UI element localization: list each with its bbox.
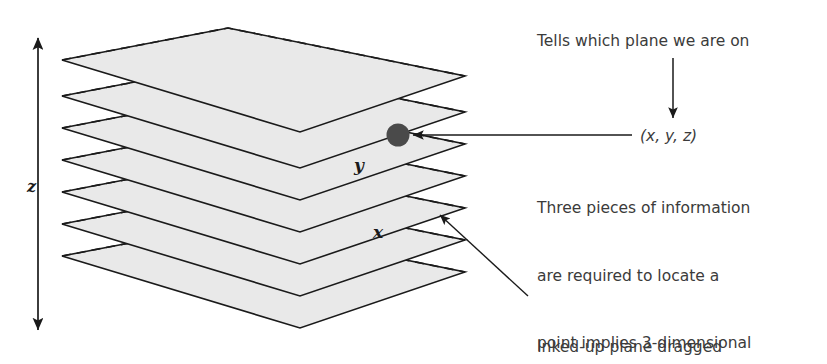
figure-canvas: z y x Tells which plane we are on (x, y,… (0, 0, 827, 364)
inked-plane-arrow (440, 215, 528, 296)
axis-label-z: z (27, 177, 36, 196)
coordinate-triplet-label: (x, y, z) (640, 125, 697, 147)
axis-label-x: x (373, 222, 383, 242)
background-watermark (118, 340, 718, 358)
axis-label-y: y (354, 155, 364, 175)
point-marker (387, 124, 410, 147)
plane-stack (62, 28, 465, 328)
description-line: Three pieces of information (537, 197, 751, 220)
description-line: are required to locate a (537, 265, 751, 288)
plane-indicator-note: Tells which plane we are on (537, 30, 749, 52)
